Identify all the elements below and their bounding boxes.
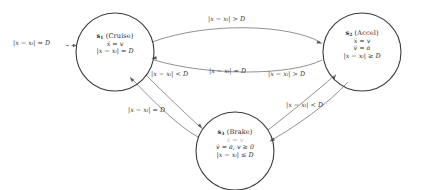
edge-s1-to-s2 [152, 28, 320, 42]
transition-label-s3-to-s2: |x − xₗ| > D [268, 70, 305, 78]
transition-label-s1-to-s3: |x − xₗ| < D [151, 70, 188, 78]
state-label-s2: s2 (Accel) ẋ = v v̇ = a |x − xₗ| ≥ D [307, 30, 417, 60]
state-equation-s3-2: |x − xₗ| ≤ D [180, 152, 290, 160]
state-diagram-figure: s1 (Cruise) ẋ = v |x − xₗ| = D s2 (Accel… [0, 0, 423, 190]
state-label-s3: s3 (Brake) ẋ = v v̇ = a, v ≥ 0 |x − xₗ| … [180, 129, 290, 159]
state-label-s1: s1 (Cruise) ẋ = v |x − xₗ| = D [60, 33, 170, 56]
transition-label-s3-to-s1: |x − xₗ| = D [128, 106, 165, 114]
state-equation-s1-1: |x − xₗ| = D [60, 48, 170, 56]
transition-label-s2-to-s3: |x − xₗ| < D [286, 101, 323, 109]
state-equation-s2-2: |x − xₗ| ≥ D [307, 53, 417, 61]
transition-label-s1-to-s2: |x − xₗ| > D [208, 15, 245, 23]
transition-label-s2-to-s1: |x − xₗ| = D [209, 67, 246, 75]
transition-label-init-to-s1: |x − xₗ| = D [13, 39, 50, 47]
